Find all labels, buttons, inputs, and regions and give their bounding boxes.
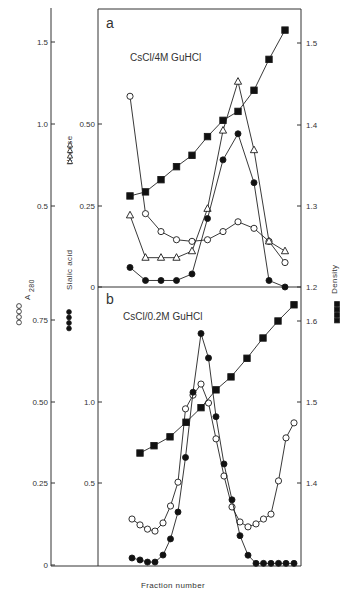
filled-square-marker bbox=[228, 374, 234, 380]
filled-circle-marker bbox=[174, 277, 180, 283]
filled-square-marker bbox=[198, 404, 204, 410]
filled-square-marker bbox=[244, 355, 250, 361]
density-label: Density bbox=[330, 265, 339, 294]
filled-square-marker bbox=[137, 450, 143, 456]
tick-label: 1.3 bbox=[306, 202, 318, 211]
tick-label: 0.50 bbox=[32, 398, 48, 407]
filled-square-marker bbox=[167, 434, 173, 440]
series-line bbox=[132, 384, 294, 531]
filled-square-marker bbox=[275, 318, 281, 324]
panel-a-letter: a bbox=[106, 15, 114, 31]
svg-text:Density: Density bbox=[330, 265, 339, 294]
open-triangle-marker bbox=[234, 78, 241, 85]
svg-text:Sialic acid: Sialic acid bbox=[65, 250, 74, 290]
chart-canvas: 1.51.00.50.500.2501.51.41.31.20.750.500.… bbox=[0, 0, 355, 589]
open-circle-marker bbox=[142, 211, 148, 217]
filled-square-marker bbox=[173, 163, 179, 169]
filled-circle-marker bbox=[189, 271, 195, 277]
series-a-a280 bbox=[127, 93, 288, 265]
filled-circle-marker bbox=[268, 560, 274, 566]
open-triangle-marker bbox=[142, 254, 149, 261]
filled-square-marker bbox=[142, 189, 148, 195]
open-circle-marker bbox=[175, 479, 181, 485]
open-circle-marker bbox=[137, 522, 143, 528]
filled-circle-marker bbox=[220, 157, 226, 163]
filled-square-marker bbox=[251, 87, 257, 93]
legend-filled-square bbox=[335, 318, 340, 323]
filled-circle-marker bbox=[137, 557, 143, 563]
filled-circle-marker bbox=[158, 277, 164, 283]
open-circle-marker bbox=[158, 228, 164, 234]
open-circle-marker bbox=[213, 436, 219, 442]
filled-square-marker bbox=[183, 419, 189, 425]
tick-label: 0.25 bbox=[79, 202, 95, 211]
tick-label: 0 bbox=[91, 283, 96, 292]
open-circle-marker bbox=[127, 93, 133, 99]
filled-square-marker bbox=[213, 387, 219, 393]
series-a-hexose bbox=[126, 78, 288, 261]
open-circle-marker bbox=[260, 516, 266, 522]
tick-label: 0.5 bbox=[37, 202, 49, 211]
filled-square-marker bbox=[189, 152, 195, 158]
filled-square-marker bbox=[291, 302, 297, 308]
filled-circle-marker bbox=[266, 277, 272, 283]
panel-b-letter: b bbox=[106, 291, 114, 307]
filled-circle-marker bbox=[251, 180, 257, 186]
filled-circle-marker bbox=[160, 552, 166, 558]
filled-square-marker bbox=[235, 108, 241, 114]
figure: 1.51.00.50.500.2501.51.41.31.20.750.500.… bbox=[0, 0, 355, 589]
data-series bbox=[126, 27, 297, 566]
tick-label: 1.5 bbox=[306, 39, 318, 48]
filled-circle-marker bbox=[229, 497, 235, 503]
filled-circle-marker bbox=[261, 560, 267, 566]
legend-filled-circle bbox=[67, 315, 72, 320]
panel-b-title: CsCl/0.2M GuHCl bbox=[123, 311, 202, 322]
filled-circle-marker bbox=[213, 414, 219, 420]
open-circle-marker bbox=[189, 238, 195, 244]
legend-filled-square bbox=[335, 307, 340, 312]
filled-circle-marker bbox=[276, 560, 282, 566]
filled-square-marker bbox=[151, 443, 157, 449]
filled-circle-marker bbox=[143, 277, 149, 283]
panel-a-title: CsCl/4M GuHCl bbox=[130, 52, 201, 63]
filled-circle-marker bbox=[283, 560, 289, 566]
filled-circle-marker bbox=[206, 355, 212, 361]
filled-circle-marker bbox=[245, 552, 251, 558]
filled-circle-marker bbox=[183, 454, 189, 460]
filled-circle-marker bbox=[129, 555, 135, 561]
open-circle-marker bbox=[235, 219, 241, 225]
filled-circle-marker bbox=[237, 533, 243, 539]
open-circle-marker bbox=[245, 524, 251, 530]
filled-circle-marker bbox=[190, 389, 196, 395]
filled-square-marker bbox=[282, 27, 288, 33]
open-triangle-marker bbox=[250, 146, 257, 153]
open-circle-marker bbox=[282, 259, 288, 265]
open-triangle-marker bbox=[126, 211, 133, 218]
open-circle-marker bbox=[220, 228, 226, 234]
tick-label: 0.25 bbox=[32, 479, 48, 488]
tick-label: 0.50 bbox=[79, 120, 95, 129]
tick-label: 0.75 bbox=[32, 316, 48, 325]
open-circle-marker bbox=[283, 435, 289, 441]
open-circle-marker bbox=[152, 528, 158, 534]
legend-filled-square bbox=[335, 313, 340, 318]
filled-circle-marker bbox=[253, 560, 259, 566]
tick-label: 1.4 bbox=[306, 479, 318, 488]
filled-circle-marker bbox=[235, 131, 241, 137]
filled-circle-marker bbox=[282, 284, 288, 290]
open-circle-marker bbox=[173, 237, 179, 243]
tick-label: 1.4 bbox=[306, 121, 318, 130]
filled-circle-marker bbox=[221, 461, 227, 467]
legend-open-circle bbox=[17, 304, 22, 309]
series-line bbox=[140, 305, 294, 453]
filled-square-marker bbox=[260, 335, 266, 341]
filled-circle-marker bbox=[168, 536, 174, 542]
filled-square-marker bbox=[204, 133, 210, 139]
open-triangle-marker bbox=[281, 247, 288, 254]
filled-square-marker bbox=[220, 117, 226, 123]
tick-label: 1.6 bbox=[306, 317, 318, 326]
legend-open-circle bbox=[17, 320, 22, 325]
series-b-a280 bbox=[129, 381, 297, 534]
legend-filled-square bbox=[335, 302, 340, 307]
open-triangle-marker bbox=[157, 254, 164, 261]
